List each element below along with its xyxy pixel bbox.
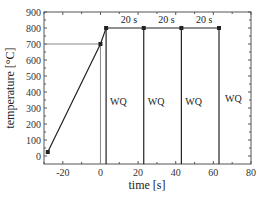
y-tick-label: 600 <box>26 55 41 66</box>
x-tick-label: 60 <box>208 167 218 178</box>
data-point-marker <box>179 26 183 30</box>
y-tick-label: 400 <box>26 87 41 98</box>
y-tick-label: 800 <box>26 23 41 34</box>
x-tick-label: 40 <box>171 167 181 178</box>
interval-label: 20 s <box>121 14 138 25</box>
x-axis-label: time [s] <box>129 178 166 192</box>
y-tick-label: 700 <box>26 39 41 50</box>
x-tick-label: -20 <box>56 167 69 178</box>
data-point-marker <box>142 26 146 30</box>
interval-label: 20 s <box>158 14 175 25</box>
x-tick-label: 80 <box>246 167 256 178</box>
quench-label: WQ <box>148 96 165 107</box>
y-tick-label: 900 <box>26 7 41 18</box>
y-tick-label: 500 <box>26 71 41 82</box>
chart: 0100200300400500600700800900 -2002040608… <box>0 0 262 199</box>
y-tick-label: 100 <box>26 135 41 146</box>
plot-frame <box>44 12 251 164</box>
quench-label: WQ <box>225 93 242 104</box>
y-tick-label: 0 <box>36 151 41 162</box>
y-tick-label: 300 <box>26 103 41 114</box>
data-series <box>46 26 221 154</box>
quench-label: WQ <box>110 96 127 107</box>
data-point-marker <box>104 26 108 30</box>
annotations: 20 s20 s20 s <box>121 14 213 25</box>
temperature-line <box>48 28 219 152</box>
quench-label: WQ <box>185 96 202 107</box>
x-tick-label: 20 <box>133 167 143 178</box>
data-point-marker <box>98 42 102 46</box>
x-tick-label: 0 <box>98 167 103 178</box>
data-point-marker <box>46 150 50 154</box>
y-tick-label: 200 <box>26 119 41 130</box>
y-axis-label: temperature [°C] <box>3 47 17 128</box>
interval-label: 20 s <box>196 14 213 25</box>
data-point-marker <box>217 26 221 30</box>
axes-box <box>44 12 251 164</box>
quench-lines: WQWQWQWQ <box>106 28 242 164</box>
